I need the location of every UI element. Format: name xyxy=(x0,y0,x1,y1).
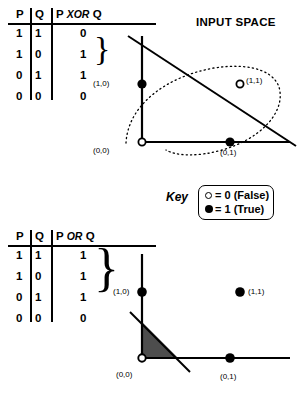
or-row3-out: 0 xyxy=(80,313,86,325)
xor-point-1-0 xyxy=(137,79,146,88)
or-plot-svg xyxy=(118,246,304,386)
xor-row1-out: 1 xyxy=(80,49,86,61)
key-row-false: = 0 (False) xyxy=(203,188,269,202)
or-row0-out: 1 xyxy=(80,250,86,262)
or-header-q: Q xyxy=(35,231,44,243)
xor-row2-q: 1 xyxy=(35,70,41,82)
xor-point-0-0 xyxy=(138,138,145,145)
xor-label-0-0: (0,0) xyxy=(93,146,109,155)
or-label-1-0: (1,0) xyxy=(113,287,129,296)
or-row0-q: 1 xyxy=(35,250,41,262)
xor-row0-p: 1 xyxy=(16,28,22,40)
xor-header-out-q: Q xyxy=(93,8,102,20)
xor-label-1-1: (1,1) xyxy=(246,76,262,85)
or-label-0-1: (0,1) xyxy=(220,372,236,381)
xor-row1-p: 1 xyxy=(16,49,22,61)
or-false-region-shaded-triangle xyxy=(142,322,178,358)
xor-label-0-1: (0,1) xyxy=(220,148,236,157)
or-point-0-0 xyxy=(138,354,145,361)
xor-header-out-op: XOR xyxy=(67,8,90,20)
or-input-space-diagram xyxy=(118,246,304,386)
xor-label-1-0: (1,0) xyxy=(93,79,109,88)
xor-row2-out: 1 xyxy=(80,70,86,82)
xor-header-out: P XOR Q xyxy=(56,9,102,21)
or-row1-p: 1 xyxy=(16,271,22,283)
xor-row3-out: 0 xyxy=(80,91,86,103)
xor-header-q: Q xyxy=(35,9,44,21)
or-header-out: P OR Q xyxy=(56,231,95,243)
key-box: = 0 (False) = 1 (True) xyxy=(198,185,274,220)
or-header-out-p: P xyxy=(56,230,63,242)
or-header-p: P xyxy=(16,231,24,243)
or-row3-q: 0 xyxy=(35,313,41,325)
xor-row3-p: 0 xyxy=(16,91,22,103)
xor-grouping-brace: } xyxy=(94,32,110,66)
xor-point-1-1 xyxy=(236,80,243,87)
xor-header-out-p: P xyxy=(56,8,63,20)
or-row3-p: 0 xyxy=(16,313,22,325)
or-label-1-1: (1,1) xyxy=(248,287,264,296)
or-row2-out: 1 xyxy=(80,292,86,304)
or-row0-p: 1 xyxy=(16,250,22,262)
or-header-out-op: OR xyxy=(67,230,83,242)
xor-row0-out: 0 xyxy=(80,28,86,40)
or-row1-out: 1 xyxy=(80,271,86,283)
key-title: Key xyxy=(166,190,188,204)
xor-row0-q: 1 xyxy=(35,28,41,40)
xor-decision-line xyxy=(128,36,296,146)
or-point-1-0 xyxy=(137,287,147,297)
xor-plot-svg xyxy=(118,30,304,160)
or-point-1-1 xyxy=(235,287,245,297)
open-circle-icon xyxy=(203,189,214,201)
or-table-header: P Q P OR Q xyxy=(8,228,158,244)
or-label-0-0: (0,0) xyxy=(116,370,132,379)
filled-circle-icon xyxy=(203,203,214,215)
xor-input-space-diagram xyxy=(118,30,304,160)
or-decision-line xyxy=(130,312,190,372)
xor-table-header: P Q P XOR Q xyxy=(8,6,158,22)
xor-row3-q: 0 xyxy=(35,91,41,103)
key-true-text: = 1 (True) xyxy=(215,203,264,215)
or-row1-q: 0 xyxy=(35,271,41,283)
key-false-text: = 0 (False) xyxy=(215,189,269,201)
or-point-0-1 xyxy=(225,353,235,363)
page-title: INPUT SPACE xyxy=(196,16,276,28)
key-row-true: = 1 (True) xyxy=(203,202,269,216)
xor-row2-p: 0 xyxy=(16,70,22,82)
xor-header-p: P xyxy=(16,9,24,21)
or-row2-q: 1 xyxy=(35,292,41,304)
or-row2-p: 0 xyxy=(16,292,22,304)
xor-point-0-1 xyxy=(225,137,234,146)
xor-row1-q: 0 xyxy=(35,49,41,61)
figure-root: P Q P XOR Q 1 1 0 1 0 1 0 1 1 0 0 0 xyxy=(0,0,304,407)
